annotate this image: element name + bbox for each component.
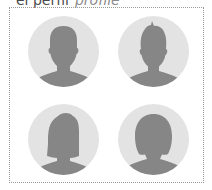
female-ponytail-silhouette-icon (118, 104, 189, 175)
female-bob-silhouette-icon (28, 104, 99, 175)
male-spiky-hair-silhouette-icon (118, 16, 189, 87)
male-silhouette-icon (28, 16, 99, 87)
